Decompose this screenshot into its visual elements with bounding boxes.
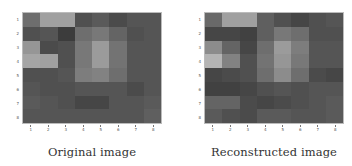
- heatmap-cell: [309, 96, 326, 110]
- heatmap-cell: [257, 68, 274, 82]
- x-tick: 4: [257, 125, 275, 133]
- x-tick-label: 8: [152, 127, 155, 132]
- heatmap-cell: [222, 109, 239, 123]
- heatmap-cell: [109, 41, 126, 55]
- heatmap-cell: [58, 41, 75, 55]
- heatmap-cell: [291, 54, 308, 68]
- heatmap-cell: [92, 27, 109, 41]
- heatmap-cell: [274, 27, 291, 41]
- heatmap-cell: [257, 54, 274, 68]
- x-tick: 4: [75, 125, 93, 133]
- heatmap-cell: [309, 109, 326, 123]
- heatmap-cell: [127, 54, 144, 68]
- heatmap-cell: [40, 68, 57, 82]
- heatmap-cell: [240, 13, 257, 27]
- x-tick: 6: [292, 125, 310, 133]
- x-tick-label: 4: [82, 127, 85, 132]
- y-tick-label: 7: [10, 96, 20, 110]
- heatmap-cell: [240, 109, 257, 123]
- heatmap-cell: [240, 27, 257, 41]
- heatmap-cell: [222, 96, 239, 110]
- heatmap-cell: [23, 109, 40, 123]
- heatmap-cell: [23, 96, 40, 110]
- heatmap-cell: [274, 41, 291, 55]
- heatmap-cell: [92, 68, 109, 82]
- heatmap-cell: [75, 68, 92, 82]
- heatmap-cell: [75, 109, 92, 123]
- heatmap-cell: [23, 54, 40, 68]
- heatmap-cell: [109, 109, 126, 123]
- y-tick-label: 8: [10, 110, 20, 124]
- heatmap-cell: [291, 27, 308, 41]
- heatmap-cell: [326, 27, 343, 41]
- heatmap-cell: [205, 27, 222, 41]
- heatmap-cell: [326, 96, 343, 110]
- y-tick-label: 6: [10, 82, 20, 96]
- heatmap-cell: [144, 82, 161, 96]
- y-tick-label: 1: [10, 12, 20, 26]
- heatmap-cell: [205, 68, 222, 82]
- x-tick-label: 2: [229, 127, 232, 132]
- heatmap-cell: [75, 96, 92, 110]
- heatmap-cell: [205, 54, 222, 68]
- heatmap-cell: [109, 54, 126, 68]
- heatmap-cell: [40, 109, 57, 123]
- y-tick-label: 3: [10, 40, 20, 54]
- heatmap-cell: [127, 68, 144, 82]
- reconstructed-image-caption: Reconstructed image: [186, 145, 352, 159]
- heatmap-cell: [240, 82, 257, 96]
- heatmap-cell: [240, 68, 257, 82]
- heatmap-cell: [92, 96, 109, 110]
- heatmap-cell: [240, 41, 257, 55]
- x-tick: 7: [127, 125, 145, 133]
- heatmap-cell: [23, 68, 40, 82]
- heatmap-cell: [274, 96, 291, 110]
- heatmap-cell: [291, 82, 308, 96]
- x-tick-label: 1: [29, 127, 32, 132]
- heatmap-cell: [144, 109, 161, 123]
- heatmap-cell: [127, 96, 144, 110]
- heatmap-cell: [291, 41, 308, 55]
- heatmap-cell: [205, 96, 222, 110]
- heatmap-cell: [75, 82, 92, 96]
- y-tick-label: 2: [192, 26, 202, 40]
- heatmap-cell: [257, 96, 274, 110]
- x-axis-ticks: 12345678: [204, 125, 344, 133]
- heatmap-cell: [240, 54, 257, 68]
- x-tick-label: 6: [117, 127, 120, 132]
- heatmap-cell: [144, 54, 161, 68]
- x-tick: 5: [274, 125, 292, 133]
- heatmap-cell: [222, 54, 239, 68]
- y-tick-label: 1: [192, 12, 202, 26]
- heatmap-cell: [274, 13, 291, 27]
- original-image-caption: Original image: [4, 145, 180, 159]
- heatmap-cell: [109, 13, 126, 27]
- y-tick-label: 5: [10, 68, 20, 82]
- heatmap-cell: [309, 54, 326, 68]
- original-image-panel: 12345678 12345678 Original image: [0, 0, 176, 166]
- reconstructed-image-heatmap: [204, 12, 344, 124]
- heatmap-cell: [240, 96, 257, 110]
- heatmap-cell: [23, 27, 40, 41]
- heatmap-cell: [75, 27, 92, 41]
- heatmap-cell: [75, 54, 92, 68]
- y-tick-label: 3: [192, 40, 202, 54]
- x-tick: 6: [110, 125, 128, 133]
- heatmap-cell: [40, 13, 57, 27]
- heatmap-cell: [58, 54, 75, 68]
- heatmap-cell: [92, 109, 109, 123]
- heatmap-cell: [205, 41, 222, 55]
- x-tick-label: 4: [264, 127, 267, 132]
- heatmap-cell: [92, 41, 109, 55]
- heatmap-cell: [205, 82, 222, 96]
- y-tick-label: 4: [10, 54, 20, 68]
- x-tick-label: 8: [334, 127, 337, 132]
- heatmap-cell: [127, 109, 144, 123]
- heatmap-cell: [326, 68, 343, 82]
- x-tick: 1: [204, 125, 222, 133]
- heatmap-cell: [291, 68, 308, 82]
- heatmap-cell: [127, 13, 144, 27]
- original-image-heatmap: [22, 12, 162, 124]
- heatmap-cell: [222, 82, 239, 96]
- heatmap-cell: [326, 13, 343, 27]
